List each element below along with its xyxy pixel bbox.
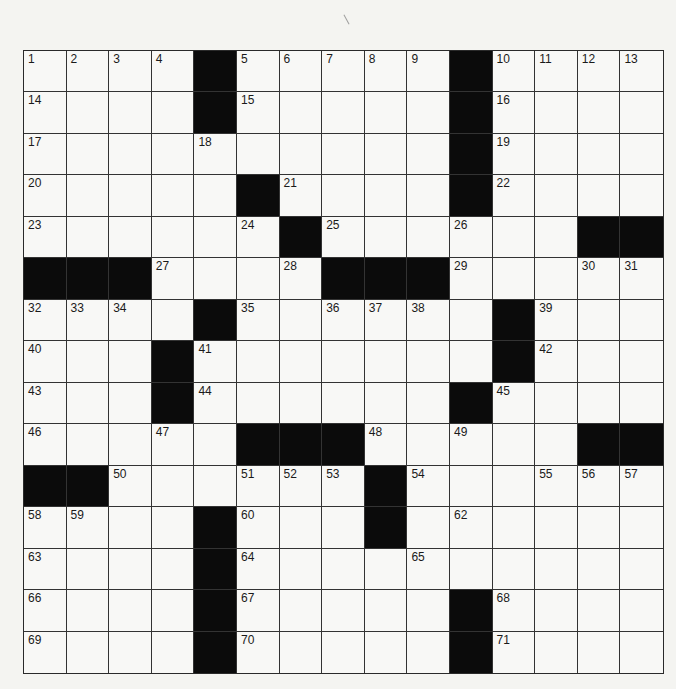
grid-cell[interactable] bbox=[450, 466, 493, 507]
grid-cell[interactable] bbox=[578, 92, 621, 133]
grid-cell[interactable]: 17 bbox=[24, 134, 67, 175]
grid-cell[interactable]: 63 bbox=[24, 549, 67, 590]
grid-cell[interactable] bbox=[620, 134, 663, 175]
grid-cell[interactable]: 21 bbox=[280, 175, 323, 216]
grid-cell[interactable]: 46 bbox=[24, 424, 67, 465]
grid-cell[interactable] bbox=[152, 549, 195, 590]
grid-cell[interactable] bbox=[578, 590, 621, 631]
grid-cell[interactable]: 53 bbox=[322, 466, 365, 507]
grid-cell[interactable]: 4 bbox=[152, 51, 195, 92]
grid-cell[interactable] bbox=[152, 92, 195, 133]
grid-cell[interactable] bbox=[578, 134, 621, 175]
grid-cell[interactable] bbox=[194, 217, 237, 258]
grid-cell[interactable] bbox=[280, 341, 323, 382]
grid-cell[interactable] bbox=[365, 383, 408, 424]
grid-cell[interactable] bbox=[407, 134, 450, 175]
grid-cell[interactable] bbox=[493, 549, 536, 590]
grid-cell[interactable]: 3 bbox=[109, 51, 152, 92]
grid-cell[interactable] bbox=[109, 341, 152, 382]
grid-cell[interactable] bbox=[109, 175, 152, 216]
grid-cell[interactable]: 30 bbox=[578, 258, 621, 299]
grid-cell[interactable] bbox=[322, 632, 365, 673]
grid-cell[interactable] bbox=[280, 134, 323, 175]
grid-cell[interactable] bbox=[535, 92, 578, 133]
grid-cell[interactable]: 37 bbox=[365, 300, 408, 341]
grid-cell[interactable] bbox=[450, 549, 493, 590]
grid-cell[interactable]: 55 bbox=[535, 466, 578, 507]
grid-cell[interactable] bbox=[67, 549, 110, 590]
grid-cell[interactable] bbox=[237, 258, 280, 299]
grid-cell[interactable] bbox=[237, 383, 280, 424]
grid-cell[interactable]: 36 bbox=[322, 300, 365, 341]
grid-cell[interactable] bbox=[620, 341, 663, 382]
grid-cell[interactable] bbox=[109, 134, 152, 175]
grid-cell[interactable] bbox=[237, 341, 280, 382]
grid-cell[interactable] bbox=[407, 424, 450, 465]
grid-cell[interactable] bbox=[280, 632, 323, 673]
grid-cell[interactable]: 12 bbox=[578, 51, 621, 92]
grid-cell[interactable]: 48 bbox=[365, 424, 408, 465]
grid-cell[interactable] bbox=[407, 175, 450, 216]
grid-cell[interactable]: 18 bbox=[194, 134, 237, 175]
grid-cell[interactable] bbox=[535, 424, 578, 465]
grid-cell[interactable] bbox=[322, 383, 365, 424]
grid-cell[interactable] bbox=[407, 383, 450, 424]
grid-cell[interactable] bbox=[620, 383, 663, 424]
grid-cell[interactable] bbox=[280, 383, 323, 424]
grid-cell[interactable]: 38 bbox=[407, 300, 450, 341]
grid-cell[interactable]: 22 bbox=[493, 175, 536, 216]
grid-cell[interactable] bbox=[578, 341, 621, 382]
grid-cell[interactable] bbox=[152, 590, 195, 631]
grid-cell[interactable]: 24 bbox=[237, 217, 280, 258]
grid-cell[interactable] bbox=[67, 383, 110, 424]
grid-cell[interactable] bbox=[109, 507, 152, 548]
grid-cell[interactable] bbox=[152, 466, 195, 507]
grid-cell[interactable] bbox=[407, 507, 450, 548]
grid-cell[interactable]: 25 bbox=[322, 217, 365, 258]
grid-cell[interactable] bbox=[620, 590, 663, 631]
grid-cell[interactable]: 39 bbox=[535, 300, 578, 341]
grid-cell[interactable] bbox=[152, 300, 195, 341]
grid-cell[interactable] bbox=[194, 466, 237, 507]
grid-cell[interactable]: 58 bbox=[24, 507, 67, 548]
grid-cell[interactable]: 34 bbox=[109, 300, 152, 341]
grid-cell[interactable]: 57 bbox=[620, 466, 663, 507]
grid-cell[interactable]: 35 bbox=[237, 300, 280, 341]
grid-cell[interactable] bbox=[493, 507, 536, 548]
grid-cell[interactable] bbox=[322, 590, 365, 631]
grid-cell[interactable]: 56 bbox=[578, 466, 621, 507]
grid-cell[interactable] bbox=[67, 175, 110, 216]
grid-cell[interactable]: 71 bbox=[493, 632, 536, 673]
grid-cell[interactable] bbox=[152, 632, 195, 673]
grid-cell[interactable]: 2 bbox=[67, 51, 110, 92]
grid-cell[interactable]: 60 bbox=[237, 507, 280, 548]
grid-cell[interactable]: 65 bbox=[407, 549, 450, 590]
grid-cell[interactable]: 28 bbox=[280, 258, 323, 299]
grid-cell[interactable] bbox=[578, 507, 621, 548]
grid-cell[interactable] bbox=[535, 258, 578, 299]
grid-cell[interactable]: 50 bbox=[109, 466, 152, 507]
grid-cell[interactable] bbox=[578, 300, 621, 341]
grid-cell[interactable] bbox=[280, 300, 323, 341]
grid-cell[interactable]: 11 bbox=[535, 51, 578, 92]
grid-cell[interactable]: 51 bbox=[237, 466, 280, 507]
grid-cell[interactable] bbox=[620, 549, 663, 590]
grid-cell[interactable]: 54 bbox=[407, 466, 450, 507]
grid-cell[interactable] bbox=[322, 134, 365, 175]
grid-cell[interactable] bbox=[237, 134, 280, 175]
grid-cell[interactable]: 42 bbox=[535, 341, 578, 382]
grid-cell[interactable]: 41 bbox=[194, 341, 237, 382]
grid-cell[interactable] bbox=[109, 383, 152, 424]
grid-cell[interactable] bbox=[450, 300, 493, 341]
grid-cell[interactable] bbox=[535, 632, 578, 673]
grid-cell[interactable] bbox=[67, 341, 110, 382]
grid-cell[interactable] bbox=[578, 175, 621, 216]
grid-cell[interactable] bbox=[109, 424, 152, 465]
grid-cell[interactable] bbox=[365, 217, 408, 258]
grid-cell[interactable] bbox=[280, 590, 323, 631]
grid-cell[interactable] bbox=[365, 175, 408, 216]
grid-cell[interactable] bbox=[407, 341, 450, 382]
grid-cell[interactable]: 66 bbox=[24, 590, 67, 631]
grid-cell[interactable] bbox=[109, 217, 152, 258]
grid-cell[interactable] bbox=[535, 175, 578, 216]
